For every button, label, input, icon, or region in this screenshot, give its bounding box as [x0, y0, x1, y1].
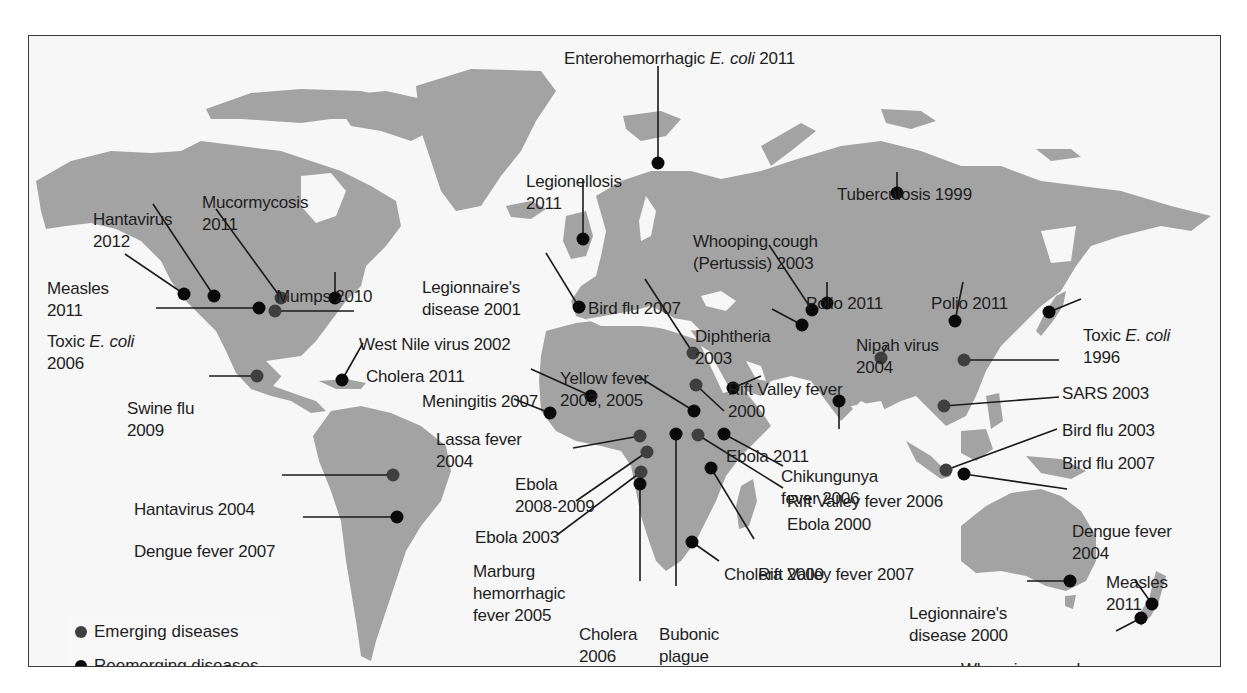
marker-label-swine-flu-2009: Swine flu2009 — [127, 398, 194, 442]
reemerging-marker-polio-2011-china — [949, 315, 962, 328]
legend-label: Emerging diseases — [94, 622, 239, 642]
label-line: West Nile virus 2002 — [359, 334, 511, 356]
marker-label-cholera-2006: Cholera2006 — [579, 624, 637, 667]
world-map — [29, 36, 1221, 667]
label-line: Bird flu 2003 — [1062, 420, 1155, 442]
marker-label-enterohemorrhagic-ecoli-2011: Enterohemorrhagic E. coli 2011 — [564, 48, 795, 70]
emerging-marker-hantavirus-2004 — [387, 469, 400, 482]
label-line: 2004 — [856, 357, 939, 379]
reemerging-marker-cholera-2006 — [634, 478, 647, 491]
label-line: 1996 — [1083, 347, 1170, 369]
marker-label-hantavirus-2004: Hantavirus 2004 — [134, 499, 255, 521]
marker-label-measles-2011-nz: Measles2011 — [1106, 572, 1168, 616]
map-frame: Enterohemorrhagic E. coli 2011Legionello… — [28, 35, 1221, 667]
label-line: Ebola 2003 — [475, 527, 559, 549]
marker-label-cholera-2011-haiti: Cholera 2011 — [366, 366, 464, 388]
marker-label-hantavirus-2012: Hantavirus2012 — [93, 209, 172, 253]
reemerging-marker-toxic-ecoli-2006 — [253, 302, 266, 315]
label-line: 2011 — [202, 214, 308, 236]
label-line: Dengue fever 2007 — [134, 541, 275, 563]
marker-label-yellow-fever-2003-2005: Yellow fever2003, 2005 — [560, 368, 649, 412]
label-line: Hantavirus 2004 — [134, 499, 255, 521]
label-line: (Pertussis) 2003 — [693, 253, 818, 275]
label-line: Yellow fever — [560, 368, 649, 390]
marker-label-ebola-2011: Ebola 2011 — [726, 446, 809, 468]
label-line: Legionellosis — [526, 171, 622, 193]
marker-label-bird-flu-2003: Bird flu 2003 — [1062, 420, 1155, 442]
emerging-marker-ebola-2011 — [690, 379, 703, 392]
label-line: SARS 2003 — [1062, 383, 1149, 405]
label-line: Hantavirus — [93, 209, 172, 231]
marker-label-ebola-2003: Ebola 2003 — [475, 527, 559, 549]
land-borneo — [961, 429, 993, 461]
marker-label-legionellosis-2011: Legionellosis2011 — [526, 171, 622, 215]
marker-label-lassa-fever-2004: Lassa fever2004 — [436, 429, 522, 473]
label-line: disease 2000 — [909, 625, 1008, 647]
label-line: Marburg — [473, 561, 565, 583]
marker-label-bird-flu-2007-indonesia: Bird flu 2007 — [1062, 453, 1155, 475]
label-line: Rift Valley fever — [728, 379, 842, 401]
land-south-america — [313, 406, 451, 661]
reemerging-marker-legionnaires-2000 — [1064, 575, 1077, 588]
label-line: Toxic E. coli — [1083, 325, 1170, 347]
label-line: Ebola 2011 — [726, 446, 809, 468]
label-line: Bird flu 2007 — [1062, 453, 1155, 475]
label-line: Whooping cough — [961, 659, 1086, 667]
reemerging-marker-bubonic-plague-2005 — [670, 428, 683, 441]
marker-label-nipah-2004: Nipah virus2004 — [856, 335, 939, 379]
reemerging-marker-dengue-fever-2004 — [958, 468, 971, 481]
marker-label-whooping-cough-2003: Whooping cough(Pertussis) 2003 — [693, 231, 818, 275]
label-line: 2006 — [47, 353, 134, 375]
label-line: Meningitis 2007 — [422, 391, 538, 413]
land-east-siberian-islands — [1036, 149, 1081, 161]
leader-line — [964, 474, 1067, 489]
marker-label-legionnaires-2000: Legionnaire'sdisease 2000 — [909, 603, 1008, 647]
emerging-marker-swine-flu-2009 — [251, 370, 264, 383]
label-line: disease 2001 — [422, 299, 521, 321]
reemerging-marker-rift-valley-fever-2007 — [705, 462, 718, 475]
reemerging-marker-yellow-fever-2003-2005 — [688, 405, 701, 418]
emerging-marker-ebola-2003 — [641, 446, 654, 459]
label-line: Cholera 2011 — [366, 366, 464, 388]
marker-label-whooping-cough-2011: Whooping cough(Pertussis) 2011 — [961, 659, 1086, 667]
reemerging-marker-cholera-2000 — [686, 536, 699, 549]
marker-label-toxic-ecoli-1996: Toxic E. coli1996 — [1083, 325, 1170, 369]
label-line: hemorrhagic — [473, 583, 565, 605]
label-line: 2009 — [127, 420, 194, 442]
label-line: 2004 — [1072, 543, 1172, 565]
marker-label-rift-valley-fever-2006: Rift Valley fever 2006 — [787, 491, 943, 513]
reemerging-dot-icon — [75, 660, 87, 667]
label-line: Polio 2011 — [931, 293, 1008, 315]
legend-item-reemerging: Reemerging diseases — [75, 656, 258, 667]
reemerging-marker-toxic-ecoli-1996 — [1043, 306, 1056, 319]
label-line: Swine flu — [127, 398, 194, 420]
legend: Emerging diseases Reemerging diseases — [67, 616, 279, 667]
emerging-marker-ebola-2008-2009 — [634, 430, 647, 443]
marker-label-sars-2003: SARS 2003 — [1062, 383, 1149, 405]
marker-label-legionnaires-2001: Legionnaire'sdisease 2001 — [422, 277, 521, 321]
label-line: Polio 2011 — [806, 293, 883, 315]
label-line: Ebola — [515, 474, 595, 496]
label-line: Chikungunya — [781, 466, 878, 488]
marker-label-mumps-2010: Mumps 2010 — [276, 286, 372, 308]
marker-label-dengue-fever-2007-sa: Dengue fever 2007 — [134, 541, 275, 563]
label-line: Mucormycosis — [202, 192, 308, 214]
label-line: 2011 — [1106, 594, 1168, 616]
leader-line — [546, 253, 579, 307]
reemerging-marker-legionellosis-2011 — [577, 233, 590, 246]
label-line: Rift Valley fever 2006 — [787, 491, 943, 513]
label-line: Lassa fever — [436, 429, 522, 451]
label-line: 2006 — [579, 646, 637, 667]
label-line: Bird flu 2007 — [588, 298, 681, 320]
reemerging-marker-hantavirus-2012 — [208, 290, 221, 303]
land-philippines — [986, 393, 1003, 429]
label-line: 2012 — [93, 231, 172, 253]
marker-label-west-nile-2002: West Nile virus 2002 — [359, 334, 511, 356]
label-line: Whooping cough — [693, 231, 818, 253]
label-line: Mumps 2010 — [276, 286, 372, 308]
land-svalbard — [623, 111, 681, 141]
marker-label-marburg-2005: Marburghemorrhagicfever 2005 — [473, 561, 565, 627]
label-line: Cholera 2000 — [724, 564, 824, 586]
label-line: Legionnaire's — [422, 277, 521, 299]
label-line: Tuberculosis 1999 — [837, 184, 972, 206]
